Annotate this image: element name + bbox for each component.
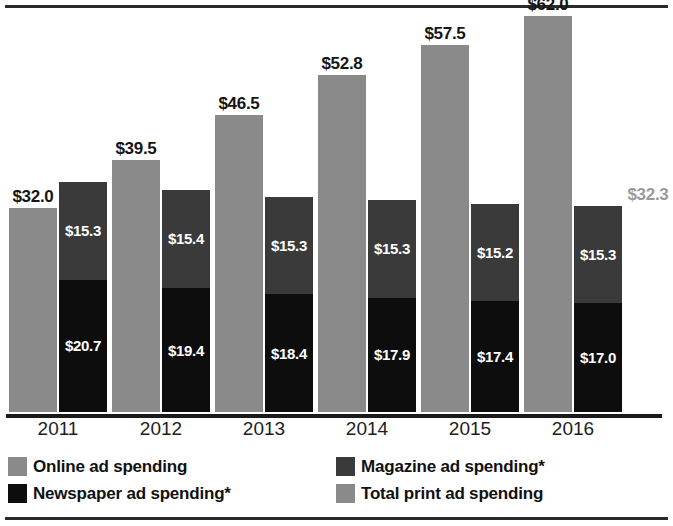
bar-value-label-magazine-2015: $15.2	[477, 245, 513, 260]
bar-value-label-magazine-2012: $15.4	[168, 231, 204, 246]
plot-area: $32.0$20.7$15.3$36.0$39.5$19.4$15.4$33.8…	[0, 14, 673, 416]
legend-swatch-online-icon	[8, 457, 27, 476]
chart-legend: Online ad spending Newspaper ad spending…	[8, 455, 668, 513]
bar-value-label-magazine-2014: $15.3	[374, 241, 410, 256]
chart-figure: $32.0$20.7$15.3$36.0$39.5$19.4$15.4$33.8…	[0, 0, 673, 526]
x-tick-label-2013: 2013	[214, 419, 314, 438]
bar-print-2016[interactable]: $17.0$15.3$32.3	[574, 206, 622, 412]
x-tick-label-2011: 2011	[8, 419, 108, 438]
bar-value-label-online-2015: $57.5	[414, 25, 476, 42]
bar-value-label-magazine-2016: $15.3	[580, 247, 616, 262]
bar-segment-newspaper-2014: $17.9	[368, 298, 416, 412]
bar-segment-newspaper-2013: $18.4	[265, 294, 313, 412]
bar-online-2015[interactable]: $57.5	[421, 45, 469, 412]
bar-segment-online	[421, 45, 469, 412]
legend-item-online-ad-spending[interactable]: Online ad spending	[8, 455, 187, 477]
bar-print-2015[interactable]: $17.4$15.2$32.6	[471, 204, 519, 412]
legend-label-newspaper: Newspaper ad spending*	[33, 485, 231, 502]
legend-label-online: Online ad spending	[33, 458, 187, 475]
bar-segment-magazine-2012: $15.4	[162, 190, 210, 288]
bar-segment-magazine-2016: $15.3	[574, 206, 622, 304]
bar-online-2016[interactable]: $62.0	[524, 16, 572, 412]
legend-item-total-print-ad-spending[interactable]: Total print ad spending	[336, 482, 543, 504]
bar-value-label-newspaper-2016: $17.0	[580, 350, 616, 365]
bar-print-2013[interactable]: $18.4$15.3$33.8	[265, 197, 313, 412]
bar-segment-online	[318, 75, 366, 412]
bar-online-2011[interactable]: $32.0	[9, 208, 57, 412]
bar-segment-magazine-2014: $15.3	[368, 200, 416, 298]
bar-segment-newspaper-2011: $20.7	[59, 280, 107, 412]
bar-online-2014[interactable]: $52.8	[318, 75, 366, 412]
bar-value-label-online-2014: $52.8	[311, 55, 373, 72]
x-tick-label-2014: 2014	[317, 419, 417, 438]
bar-segment-online	[524, 16, 572, 412]
bar-value-label-newspaper-2013: $18.4	[271, 346, 307, 361]
bar-segment-magazine-2011: $15.3	[59, 182, 107, 280]
x-tick-label-2016: 2016	[523, 419, 623, 438]
legend-item-newspaper-ad-spending[interactable]: Newspaper ad spending*	[8, 482, 231, 504]
x-tick-label-2015: 2015	[420, 419, 520, 438]
bar-segment-newspaper-2015: $17.4	[471, 301, 519, 412]
x-tick-label-2012: 2012	[111, 419, 211, 438]
legend-item-magazine-ad-spending[interactable]: Magazine ad spending*	[336, 455, 545, 477]
legend-swatch-total-print-icon	[336, 484, 355, 503]
bar-segment-magazine-2013: $15.3	[265, 197, 313, 295]
bar-segment-online	[215, 115, 263, 412]
bar-value-label-online-2012: $39.5	[105, 140, 167, 157]
bar-value-label-newspaper-2011: $20.7	[65, 338, 101, 353]
bar-value-label-magazine-2013: $15.3	[271, 238, 307, 253]
bar-online-2013[interactable]: $46.5	[215, 115, 263, 412]
bar-value-label-newspaper-2015: $17.4	[477, 349, 513, 364]
bar-segment-online	[112, 160, 160, 412]
legend-swatch-newspaper-icon	[8, 484, 27, 503]
bar-value-label-newspaper-2012: $19.4	[168, 343, 204, 358]
bar-segment-online	[9, 208, 57, 412]
bar-print-2012[interactable]: $19.4$15.4$33.8	[162, 190, 210, 412]
legend-label-total-print: Total print ad spending	[361, 485, 543, 502]
bar-value-label-total-print-2016: $32.3	[617, 186, 673, 203]
legend-swatch-magazine-icon	[336, 457, 355, 476]
bar-value-label-online-2016: $62.0	[517, 0, 579, 13]
bar-value-label-online-2013: $46.5	[208, 95, 270, 112]
bar-value-label-newspaper-2014: $17.9	[374, 347, 410, 362]
x-axis-tick-labels: 201120122013201420152016	[0, 419, 673, 447]
bar-value-label-online-2011: $32.0	[2, 188, 64, 205]
bar-segment-newspaper-2012: $19.4	[162, 288, 210, 412]
bar-print-2011[interactable]: $20.7$15.3$36.0	[59, 182, 107, 412]
bottom-divider-rule	[5, 517, 668, 520]
bar-value-label-magazine-2011: $15.3	[65, 223, 101, 238]
bar-online-2012[interactable]: $39.5	[112, 160, 160, 412]
bar-print-2014[interactable]: $17.9$15.3$33.1	[368, 200, 416, 412]
legend-label-magazine: Magazine ad spending*	[361, 458, 545, 475]
bar-segment-magazine-2015: $15.2	[471, 204, 519, 301]
bar-segment-newspaper-2016: $17.0	[574, 303, 622, 412]
